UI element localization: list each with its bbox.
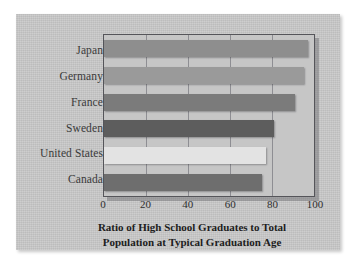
bar-row bbox=[104, 94, 314, 111]
category-label-sweden: Sweden bbox=[20, 123, 103, 135]
caption-line-1: Ratio of High School Graduates to Total bbox=[42, 220, 342, 235]
bar-germany bbox=[104, 67, 304, 84]
bar-row bbox=[104, 120, 314, 137]
x-tick-0: 0 bbox=[100, 199, 106, 210]
bar-series bbox=[104, 35, 314, 196]
category-label-france: France bbox=[20, 97, 103, 109]
x-tick-80: 80 bbox=[267, 199, 278, 210]
bar-row bbox=[104, 147, 314, 164]
bar-united-states bbox=[104, 147, 266, 164]
category-label-united-states: United States bbox=[20, 148, 103, 160]
bar-row bbox=[104, 174, 314, 191]
plot-area bbox=[103, 34, 315, 197]
x-axis-title: Ratio of High School Graduates to Total … bbox=[42, 220, 342, 249]
bar-japan bbox=[104, 40, 308, 57]
category-label-germany: Germany bbox=[20, 71, 103, 83]
bar-row bbox=[104, 40, 314, 57]
figure-panel: Japan Germany France Sweden United State… bbox=[16, 14, 340, 250]
x-tick-60: 60 bbox=[225, 199, 236, 210]
category-label-japan: Japan bbox=[20, 45, 103, 57]
category-label-canada: Canada bbox=[20, 174, 103, 186]
x-tick-20: 20 bbox=[140, 199, 151, 210]
caption-line-2: Population at Typical Graduation Age bbox=[42, 235, 342, 250]
bar-canada bbox=[104, 174, 262, 191]
x-axis-tick-labels: 020406080100 bbox=[103, 199, 315, 213]
x-tick-40: 40 bbox=[182, 199, 193, 210]
category-axis-labels: Japan Germany France Sweden United State… bbox=[20, 38, 103, 193]
x-tick-100: 100 bbox=[307, 199, 324, 210]
bar-row bbox=[104, 67, 314, 84]
bar-france bbox=[104, 94, 295, 111]
bar-sweden bbox=[104, 120, 274, 137]
